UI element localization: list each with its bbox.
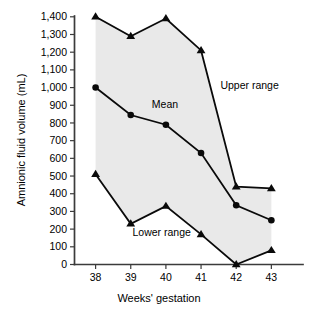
data-point-marker bbox=[163, 121, 170, 128]
y-tick-label: 400 bbox=[49, 187, 67, 199]
chart-figure: 01002003004005006007008009001,0001,1001,… bbox=[0, 0, 312, 311]
data-point-marker bbox=[268, 217, 275, 224]
x-tick-label: 38 bbox=[90, 271, 102, 283]
x-tick-label: 42 bbox=[230, 271, 242, 283]
y-tick-label: 100 bbox=[49, 240, 67, 252]
series-annotation-label: Mean bbox=[152, 98, 178, 110]
y-tick-label: 300 bbox=[49, 205, 67, 217]
amnionic-fluid-volume-line-chart: 01002003004005006007008009001,0001,1001,… bbox=[0, 0, 312, 311]
y-tick-label: 1,200 bbox=[41, 46, 67, 58]
y-tick-label: 500 bbox=[49, 170, 67, 182]
y-tick-label: 0 bbox=[61, 258, 67, 270]
y-tick-label: 200 bbox=[49, 223, 67, 235]
y-tick-label: 800 bbox=[49, 117, 67, 129]
y-tick-label: 900 bbox=[49, 99, 67, 111]
y-tick-label: 1,400 bbox=[41, 10, 67, 22]
y-tick-label: 1,000 bbox=[41, 81, 67, 93]
x-tick-label: 41 bbox=[195, 271, 207, 283]
x-tick-label: 43 bbox=[266, 271, 278, 283]
series-annotation-label: Upper range bbox=[220, 79, 279, 91]
y-tick-label: 1,100 bbox=[41, 63, 67, 75]
data-point-marker bbox=[127, 112, 134, 119]
y-axis-title: Amnionic fluid volume (mL) bbox=[15, 74, 27, 207]
x-axis-title: Weeks' gestation bbox=[117, 292, 200, 304]
series-annotation-label: Lower range bbox=[133, 226, 192, 238]
data-point-marker bbox=[198, 150, 205, 157]
y-tick-label: 600 bbox=[49, 152, 67, 164]
y-tick-label: 700 bbox=[49, 134, 67, 146]
x-tick-label: 40 bbox=[160, 271, 172, 283]
data-point-marker bbox=[92, 84, 99, 91]
y-tick-label: 1,300 bbox=[41, 28, 67, 40]
data-point-marker bbox=[233, 202, 240, 209]
x-tick-label: 39 bbox=[125, 271, 137, 283]
